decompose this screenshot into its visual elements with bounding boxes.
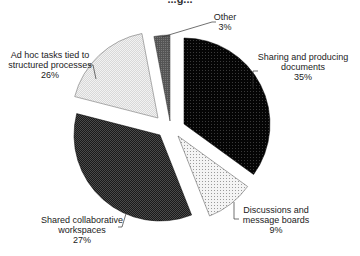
label-sharing-line1: Sharing and producing xyxy=(250,52,356,62)
label-sharing-line2: documents xyxy=(250,62,356,72)
label-other: Other 3% xyxy=(205,12,245,32)
label-adhoc-line2: structured processes xyxy=(4,60,96,70)
label-adhoc: Ad hoc tasks tied to structured processe… xyxy=(4,50,96,80)
label-discussions-line2: message boards xyxy=(226,215,326,225)
label-other-name: Other xyxy=(205,12,245,22)
label-shared-pct: 27% xyxy=(34,235,130,245)
chart-title: ...g... xyxy=(0,0,360,5)
label-discussions: Discussions and message boards 9% xyxy=(226,205,326,235)
label-shared-line2: workspaces xyxy=(34,225,130,235)
label-sharing-pct: 35% xyxy=(250,72,356,82)
label-sharing: Sharing and producing documents 35% xyxy=(250,52,356,82)
label-discussions-pct: 9% xyxy=(226,225,326,235)
label-discussions-line1: Discussions and xyxy=(226,205,326,215)
label-adhoc-pct: 26% xyxy=(4,70,96,80)
label-adhoc-line1: Ad hoc tasks tied to xyxy=(4,50,96,60)
label-shared: Shared collaborative workspaces 27% xyxy=(34,215,130,245)
label-shared-line1: Shared collaborative xyxy=(34,215,130,225)
label-other-pct: 3% xyxy=(205,22,245,32)
slice-shared xyxy=(74,114,192,221)
